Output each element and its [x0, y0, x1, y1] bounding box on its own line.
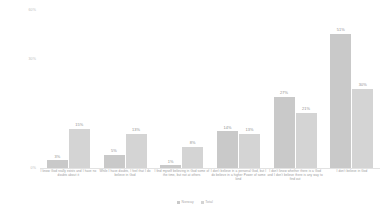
bar-item: 3%: [47, 10, 68, 168]
category-label: I don't believe in God: [324, 170, 381, 174]
bar-value-label: 27%: [280, 90, 288, 95]
bar-group: 1% 8%: [153, 10, 210, 168]
bar-total: [239, 134, 260, 168]
bar-total: [352, 89, 373, 168]
legend-swatch-icon: [201, 201, 204, 204]
bar-value-label: 30%: [359, 82, 367, 87]
bar-item: 51%: [330, 10, 351, 168]
category-label: I know God really exists and I have no d…: [40, 170, 97, 178]
bar-group: 3% 15%: [40, 10, 97, 168]
x-axis-category-labels: I know God really exists and I have no d…: [40, 170, 380, 198]
bar-value-label: 21%: [302, 106, 310, 111]
legend-item-total[interactable]: Total: [201, 200, 213, 204]
category-label: I find myself believing in God some of t…: [153, 170, 210, 178]
y-tick-label: 0%: [31, 166, 36, 170]
bar-value-label: 8%: [190, 140, 196, 145]
bar-norway: [104, 155, 125, 168]
bar-norway: [274, 97, 295, 168]
bar-group: 5% 13%: [97, 10, 154, 168]
bar-item: 1%: [160, 10, 181, 168]
bar-item: 13%: [126, 10, 147, 168]
bar-group: 27% 21%: [267, 10, 324, 168]
bar-value-label: 5%: [111, 148, 117, 153]
plot-area: 3% 15% 5% 13% 1% 8%: [40, 10, 380, 168]
bar-value-label: 1%: [168, 159, 174, 164]
legend-label: Norway: [182, 200, 194, 204]
bar-group: 14% 13%: [210, 10, 267, 168]
bar-chart: 60% 30% 0% 3% 15% 5% 13%: [0, 0, 390, 216]
bar-item: 30%: [352, 10, 373, 168]
bar-norway: [330, 34, 351, 168]
bar-value-label: 13%: [132, 127, 140, 132]
bar-value-label: 3%: [54, 154, 60, 159]
y-tick-label: 60%: [29, 8, 37, 12]
bar-item: 8%: [182, 10, 203, 168]
bar-norway: [47, 160, 68, 168]
bar-value-label: 51%: [337, 27, 345, 32]
y-axis: 60% 30% 0%: [0, 0, 40, 216]
bar-item: 13%: [239, 10, 260, 168]
bar-value-label: 14%: [223, 125, 231, 130]
bar-group: 51% 30%: [324, 10, 381, 168]
bar-value-label: 13%: [245, 127, 253, 132]
bar-item: 27%: [274, 10, 295, 168]
bar-item: 5%: [104, 10, 125, 168]
legend: Norway Total: [0, 200, 390, 204]
bar-norway: [217, 131, 238, 168]
bar-total: [69, 129, 90, 169]
legend-swatch-icon: [177, 201, 180, 204]
bar-item: 21%: [296, 10, 317, 168]
category-label: I don't know whether there is a God and …: [267, 170, 324, 182]
legend-item-norway[interactable]: Norway: [177, 200, 194, 204]
bar-total: [182, 147, 203, 168]
bar-norway: [160, 165, 181, 168]
y-tick-label: 30%: [29, 57, 37, 61]
bar-total: [126, 134, 147, 168]
bar-item: 14%: [217, 10, 238, 168]
category-label: While I have doubts, I feel that I do be…: [97, 170, 154, 178]
bar-item: 15%: [69, 10, 90, 168]
bar-total: [296, 113, 317, 168]
legend-label: Total: [205, 200, 213, 204]
category-label: I don't believe in a personal God, but I…: [210, 170, 267, 182]
bar-value-label: 15%: [75, 122, 83, 127]
